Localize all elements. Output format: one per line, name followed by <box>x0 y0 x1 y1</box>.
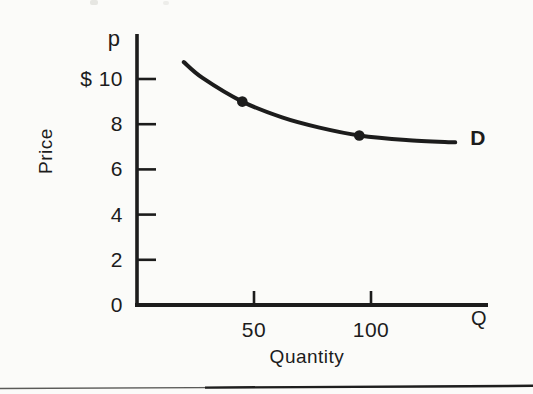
x-axis-symbol-label: Q <box>465 305 493 331</box>
figure-canvas: p Q D Price Quantity $ 108642050100 <box>0 0 533 394</box>
data-point-dot <box>354 130 365 141</box>
data-point-dot <box>237 96 248 107</box>
y-tick-label: $ 10 <box>63 66 123 92</box>
demand-curve <box>184 62 455 142</box>
y-tick-label: 8 <box>63 111 123 137</box>
page-rule-line-dark <box>205 386 533 388</box>
scan-smudge <box>163 1 169 5</box>
x-tick-label: 100 <box>341 317 401 343</box>
demand-curve-label: D <box>463 125 493 151</box>
y-axis-title: Price <box>33 105 59 197</box>
y-axis-symbol-label: p <box>100 26 128 52</box>
x-axis-title: Quantity <box>247 344 367 370</box>
x-tick-label: 50 <box>224 317 284 343</box>
y-tick-label: 2 <box>63 247 123 273</box>
scan-smudge <box>90 0 98 5</box>
y-tick-label: 6 <box>63 156 123 182</box>
y-tick-label: 4 <box>63 202 123 228</box>
y-tick-label: 0 <box>63 292 123 318</box>
